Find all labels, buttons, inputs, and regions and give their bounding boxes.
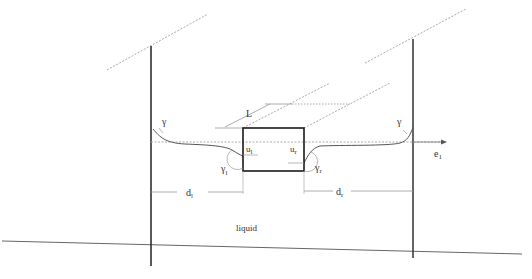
liquid-label: liquid bbox=[236, 223, 258, 233]
gamma-right-tick bbox=[403, 130, 407, 134]
box-perspective-line-right bbox=[304, 83, 390, 128]
length-label: L bbox=[246, 108, 252, 119]
gamma-r-label: γr bbox=[314, 162, 322, 175]
u-left-label: ul bbox=[246, 144, 253, 156]
ground-line bbox=[2, 241, 522, 254]
d-left-label: dl bbox=[186, 187, 193, 200]
axis-e1-label: e1 bbox=[434, 148, 442, 161]
left-wall-perspective-line bbox=[107, 14, 208, 70]
gamma-l-label: γl bbox=[220, 163, 227, 177]
gamma-l-arc bbox=[227, 150, 243, 170]
gamma-right-label: γ bbox=[396, 116, 402, 127]
right-wall-perspective-line bbox=[365, 9, 466, 63]
d-right-label: dr bbox=[336, 186, 344, 199]
u-right-label: ur bbox=[290, 144, 298, 156]
axis-e1-arrow-icon bbox=[441, 140, 447, 145]
right-meniscus bbox=[304, 127, 413, 163]
gamma-left-label: γ bbox=[161, 116, 167, 127]
gamma-left-tick bbox=[159, 128, 163, 133]
capillary-diagram: L e1 γ γ ul ur γl γr dl dr liquid bbox=[0, 0, 532, 279]
